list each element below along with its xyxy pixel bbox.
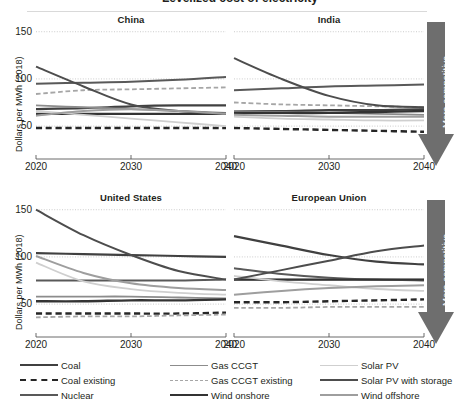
legend-swatch [20,394,58,396]
legend-label: Solar PV [361,360,399,371]
x-tick-label: 2030 [309,339,349,350]
y-tick-label: 150 [6,204,32,215]
panel-title: India [234,14,424,25]
y-tick-label: 150 [6,26,32,37]
plot-area [234,27,424,171]
series-line-gas-ccgt [36,296,226,298]
arrow-shape [418,200,458,348]
legend-swatch [170,394,208,396]
series-line-solar-pv-with-storage [36,210,226,280]
panel-india: India 202020302040 [234,14,424,166]
y-tick-label: 100 [6,251,32,262]
panel-title: United States [36,192,226,203]
x-tick-label: 2020 [214,339,254,350]
x-axis-line [36,333,226,337]
series-line-coal-existing [234,299,424,302]
series-line-wind-offshore [36,256,226,290]
x-tick-label: 2020 [16,161,56,172]
legend-label: Wind onshore [211,390,270,401]
legend-label: Gas CCGT [211,360,258,371]
series-line-coal-existing [234,128,424,132]
panel-united-states: United States 20202030204015010050 [36,192,226,344]
top-divider [27,11,427,12]
arrow-label: More competitive [440,234,451,306]
legend-label: Solar PV with storage [361,375,452,386]
legend-item[interactable]: Nuclear [20,390,94,402]
legend-label: Coal [61,360,81,371]
legend-swatch [320,365,358,366]
legend-item[interactable]: Gas CCGT existing [170,375,293,387]
legend-swatch [320,394,358,396]
legend-item[interactable]: Wind onshore [170,390,270,402]
plot-area [234,205,424,349]
x-axis-line [36,155,226,159]
legend-item[interactable]: Coal [20,360,81,372]
y-axis-label-row1: Dollars per MWh (2018) [14,56,24,152]
x-tick-label: 2030 [309,161,349,172]
arrow-shape [418,22,458,170]
series-line-wind-onshore [36,299,226,301]
arrow-label: More competitive [440,56,451,128]
series-line-solar-pv-with-storage [234,58,424,107]
legend-item[interactable]: Coal existing [20,375,115,387]
panel-title: European Union [234,192,424,203]
legend-swatch [170,365,208,366]
legend-swatch [20,364,58,366]
legend-item[interactable]: Gas CCGT [170,360,258,372]
y-axis-label-row2: Dollars per MWh (2018) [14,234,24,330]
series-line-gas-ccgt-existing [234,307,424,308]
x-tick-label: 2020 [214,161,254,172]
more-competitive-arrow-row2: More competitive [418,200,458,348]
x-axis-line [234,155,424,159]
panel-european-union: European Union 202020302040 [234,192,424,344]
figure-root: Levelized cost of electricity Dollars pe… [0,0,466,406]
y-tick-label: 100 [6,73,32,84]
legend-label: Wind offshore [361,390,419,401]
legend-item[interactable]: Wind offshore [320,390,419,402]
x-tick-label: 2030 [111,161,151,172]
figure-title-partial: Levelized cost of electricity [150,0,330,5]
legend-swatch [320,379,358,381]
series-line-coal-existing [36,313,226,314]
plot-area [36,205,226,349]
series-line-nuclear [234,85,424,91]
legend-label: Nuclear [61,390,94,401]
series-line-gas-ccgt-existing [36,315,226,318]
legend-swatch [170,380,208,381]
legend-label: Coal existing [61,375,115,386]
plot-area [36,27,226,171]
series-line-gas-ccgt-existing [36,87,226,94]
x-tick-label: 2020 [16,339,56,350]
x-tick-label: 2030 [111,339,151,350]
legend: CoalCoal existingNuclearGas CCGTGas CCGT… [0,358,466,406]
more-competitive-arrow-row1: More competitive [418,22,458,170]
panel-title: China [36,14,226,25]
legend-item[interactable]: Solar PV [320,360,399,372]
legend-item[interactable]: Solar PV with storage [320,375,452,387]
legend-swatch [20,379,58,381]
panel-china: China 20202030204015010050 [36,14,226,166]
y-tick-label: 50 [6,120,32,131]
x-axis-line [234,333,424,337]
series-line-nuclear [36,280,226,281]
legend-label: Gas CCGT existing [211,375,293,386]
y-tick-label: 50 [6,298,32,309]
